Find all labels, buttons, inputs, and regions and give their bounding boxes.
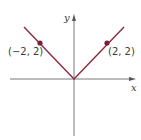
point-neg2-2	[37, 40, 42, 45]
point-label-right: (2, 2)	[108, 46, 135, 57]
y-axis-arrow-icon	[72, 14, 76, 21]
x-axis-label: x	[131, 82, 137, 93]
x-axis-arrow-icon	[129, 77, 136, 81]
point-2-2	[104, 40, 109, 45]
point-label-left: (−2, 2)	[8, 46, 43, 57]
y-axis-label: y	[63, 12, 70, 23]
graph-canvas: (−2, 2) (2, 2) y x	[0, 0, 141, 140]
